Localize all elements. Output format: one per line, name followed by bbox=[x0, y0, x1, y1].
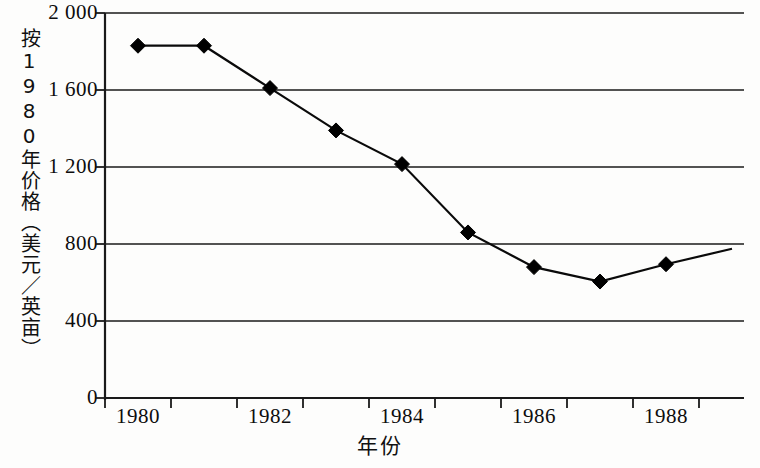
series-line-path bbox=[138, 46, 732, 282]
data-point-marker bbox=[131, 38, 146, 53]
line-chart: 按1980年价格（美元／英亩） 2 0001 6001 2008004000 1… bbox=[0, 0, 760, 468]
data-point-marker bbox=[263, 81, 278, 96]
data-series bbox=[138, 46, 732, 282]
data-point-marker bbox=[197, 38, 212, 53]
data-point-marker bbox=[593, 274, 608, 289]
x-axis-tickmarks bbox=[105, 398, 699, 408]
plot-area bbox=[0, 0, 760, 468]
data-point-marker bbox=[527, 260, 542, 275]
data-point-markers bbox=[131, 38, 674, 289]
gridlines bbox=[105, 13, 744, 398]
data-point-marker bbox=[329, 123, 344, 138]
data-point-marker bbox=[659, 257, 674, 272]
y-axis-tickmarks bbox=[96, 13, 105, 398]
axis-lines bbox=[105, 13, 744, 400]
